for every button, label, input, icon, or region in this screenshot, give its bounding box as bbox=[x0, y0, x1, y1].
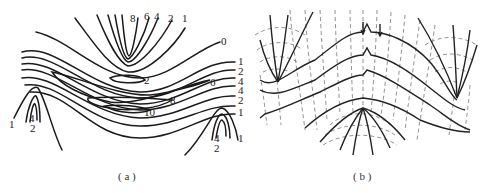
panel-b-flow-net: ( b ) bbox=[245, 0, 485, 193]
caption-a: ( a ) bbox=[118, 170, 136, 182]
label-8: 8 bbox=[130, 12, 136, 24]
label-r1b: 1 bbox=[238, 106, 244, 118]
contour-map-svg: 8 6 4 2 1 0 1 2 4 4 2 1 1 2 6 8 10 1 4 2… bbox=[0, 0, 245, 193]
panel-a-contour-map: 8 6 4 2 1 0 1 2 4 4 2 1 1 2 6 8 10 1 4 2… bbox=[0, 0, 245, 193]
label-l2: 2 bbox=[30, 122, 36, 134]
label-0: 0 bbox=[221, 35, 227, 47]
label-c6: 6 bbox=[210, 76, 216, 88]
label-6: 6 bbox=[144, 10, 150, 22]
label-4: 4 bbox=[154, 10, 160, 22]
label-1: 1 bbox=[182, 12, 188, 24]
label-2: 2 bbox=[168, 12, 174, 24]
label-c8: 8 bbox=[170, 94, 176, 106]
label-rl2: 2 bbox=[214, 142, 220, 154]
label-c2: 2 bbox=[144, 74, 150, 86]
label-r2b: 2 bbox=[238, 94, 244, 106]
caption-b: ( b ) bbox=[353, 170, 371, 182]
label-l1: 1 bbox=[9, 118, 15, 130]
label-r1c: 1 bbox=[238, 132, 244, 144]
flow-net-svg bbox=[245, 0, 485, 193]
label-c10: 10 bbox=[144, 106, 156, 118]
